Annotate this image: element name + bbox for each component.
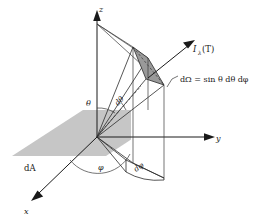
y-axis-label: y (215, 134, 221, 143)
z-axis-label: z (98, 5, 104, 14)
radiance-solid-angle-figure: z y x θ φ dθ dφ dA I λ (T) dΩ = sin θ dθ… (0, 0, 257, 223)
x-axis-arrowhead (31, 191, 43, 201)
y-axis-arrowhead (204, 133, 215, 141)
prism-back-face (131, 46, 176, 178)
radiance-subscript-label: λ (197, 50, 202, 56)
figure-canvas: z y x θ φ dθ dφ dA I λ (T) dΩ = sin θ dθ… (0, 0, 257, 223)
solid-angle-equation-label: dΩ = sin θ dθ dφ (180, 75, 249, 84)
area-element-label: dA (24, 163, 36, 173)
theta-label: θ (86, 99, 91, 108)
phi-label: φ (98, 163, 104, 172)
radiance-argument-label: (T) (202, 44, 214, 54)
x-axis-label: x (24, 207, 29, 216)
radiance-label: I (192, 44, 197, 54)
radiance-label-group: I λ (T) (192, 44, 214, 56)
